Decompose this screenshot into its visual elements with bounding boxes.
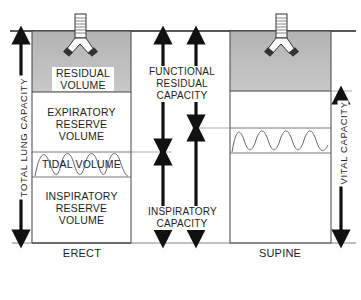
functional-residual-capacity-label: FUNCTIONAL RESIDUAL CAPACITY <box>146 66 218 102</box>
erect-label: ERECT <box>52 247 112 259</box>
supine-label: SUPINE <box>250 247 310 259</box>
residual-volume-label: RESIDUAL VOLUME <box>52 67 114 91</box>
expiratory-reserve-volume-label: EXPIRATORY RESERVE VOLUME <box>34 106 129 142</box>
inspiratory-reserve-volume-label: INSPIRATORY RESERVE VOLUME <box>34 190 129 226</box>
total-lung-capacity-label: TOTAL LUNG CAPACITY <box>18 76 29 200</box>
inspiratory-capacity-label: INSPIRATORY CAPACITY <box>146 206 218 230</box>
tidal-volume-label: TIDAL VOLUME <box>34 158 129 170</box>
vital-capacity-label: VITAL CAPACITY <box>338 101 349 187</box>
